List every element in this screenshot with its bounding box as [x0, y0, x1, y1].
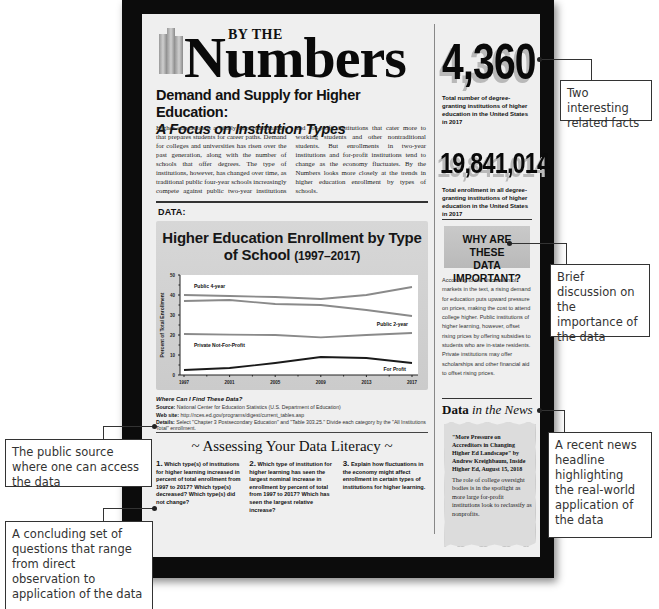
svg-text:20: 20 — [170, 333, 176, 338]
logo-numbers: Numbers — [184, 28, 406, 88]
callout-questions: A concluding set of questions that range… — [5, 521, 153, 609]
questions-list: 1. Which type(s) of institutions for hig… — [156, 460, 428, 514]
svg-text:40: 40 — [170, 293, 176, 298]
svg-text:2005: 2005 — [270, 380, 281, 385]
svg-text:2017: 2017 — [407, 380, 418, 385]
svg-text:0: 0 — [172, 373, 175, 378]
divider — [156, 201, 428, 203]
fact-number-2: 19,841,01419,841,014 — [440, 147, 549, 179]
source-text: National Center for Education Statistics… — [177, 404, 341, 410]
divider — [156, 432, 428, 433]
callout-source: The public source where one can access t… — [5, 439, 152, 487]
column-divider — [434, 24, 435, 534]
svg-text:For Profit: For Profit — [384, 366, 407, 372]
divider — [442, 219, 532, 220]
fact-caption-1: Total number of degree-granting institut… — [442, 94, 532, 126]
svg-text:50: 50 — [170, 273, 176, 278]
svg-text:2001: 2001 — [225, 380, 236, 385]
why-important-text: According to the discussion of markets i… — [442, 276, 534, 378]
question-item: 1. Which type(s) of institutions for hig… — [156, 460, 241, 514]
callout-why: Brief discussion on the importance of th… — [550, 264, 650, 337]
divider — [442, 398, 532, 399]
data-label: DATA: — [158, 207, 186, 217]
svg-text:Private Not-For-Profit: Private Not-For-Profit — [194, 342, 245, 348]
news-clipping: "More Pressure on Accreditors in Changin… — [444, 422, 536, 547]
question-item: 3. Explain how fluctuations in the econo… — [343, 460, 428, 514]
question-item: 2. Which type of institution for higher … — [249, 460, 334, 514]
line-chart: 01020304050199720012005200920132017Perce… — [156, 269, 428, 390]
news-body: The role of college oversight bodies is … — [452, 476, 532, 518]
svg-text:2013: 2013 — [361, 380, 372, 385]
svg-text:30: 30 — [170, 313, 176, 318]
callout-news: A recent news headline highlighting the … — [548, 432, 652, 538]
source-url[interactable]: http://nces.ed.gov/programs/digest/curre… — [180, 412, 304, 418]
svg-text:10: 10 — [170, 353, 176, 358]
chart-title: Higher Education Enrollment by Type of S… — [156, 229, 428, 265]
svg-text:Public 4-year: Public 4-year — [194, 283, 225, 289]
headline-main: Demand and Supply for Higher Education: — [156, 87, 360, 120]
enrollment-chart: Higher Education Enrollment by Type of S… — [156, 221, 428, 390]
why-important-heading: WHY ARE THESE DATA IMPORTANT? — [444, 226, 530, 268]
svg-text:1997: 1997 — [179, 380, 190, 385]
intro-text: Higher education is a vitally important … — [156, 123, 426, 195]
assessing-title: ~ Assessing Your Data Literacy ~ — [156, 438, 428, 455]
bar-chart-icon — [159, 28, 185, 74]
news-headline: "More Pressure on Accreditors in Changin… — [452, 433, 530, 473]
svg-text:2009: 2009 — [316, 380, 327, 385]
source-question: Where Can I Find These Data? — [156, 395, 428, 403]
news-heading: Data in the News — [442, 402, 533, 418]
by-the-numbers-page: BY THE Numbers Demand and Supply for Hig… — [142, 14, 540, 557]
callout-facts: Two interesting related facts — [560, 80, 652, 121]
by-the-numbers-logo: BY THE Numbers — [156, 22, 424, 82]
source-details: Select "Chapter 3 Postsecondary Educatio… — [156, 419, 426, 431]
data-source: Where Can I Find These Data? Source: Nat… — [156, 395, 428, 432]
fact-number-1: 4,3604,360 — [442, 36, 536, 88]
svg-text:Percent of Total Enrollment: Percent of Total Enrollment — [159, 292, 165, 357]
svg-text:Public 2-year: Public 2-year — [377, 321, 408, 327]
fact-caption-2: Total enrollment in all degree-granting … — [442, 186, 532, 218]
